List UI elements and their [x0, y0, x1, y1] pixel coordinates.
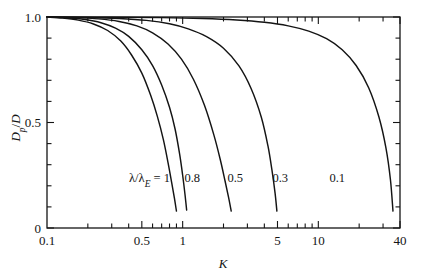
x-tick-label: 0.5	[134, 233, 150, 248]
y-tick-label: 0	[35, 221, 42, 236]
x-tick-label: 1	[179, 233, 186, 248]
x-tick-label: 10	[312, 233, 325, 248]
x-axis-title: K	[218, 256, 229, 271]
y-tick-label: 1.0	[25, 10, 41, 25]
x-tick-label: 0.1	[39, 233, 55, 248]
x-tick-label: 40	[394, 233, 407, 248]
curve-label-0.1: 0.1	[329, 171, 345, 185]
chart-background	[0, 0, 424, 278]
curve-label-0.3: 0.3	[272, 171, 288, 185]
curve-label-0.8: 0.8	[184, 171, 200, 185]
chart-svg: 0.10.5151040 1.00.50 λ/λE = 10.80.50.30.…	[0, 0, 424, 278]
y-axis-title-denom: D	[8, 114, 23, 125]
curve-label-0.5: 0.5	[227, 171, 243, 185]
figure-container: 0.10.5151040 1.00.50 λ/λE = 10.80.50.30.…	[0, 0, 424, 278]
x-tick-label: 5	[274, 233, 281, 248]
y-tick-label: 0.5	[25, 115, 41, 130]
y-axis-title-main: D	[8, 132, 23, 143]
